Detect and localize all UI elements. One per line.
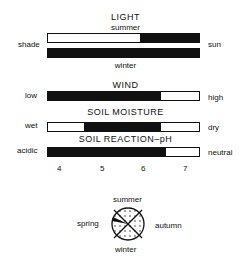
season-circle-icon [108, 204, 148, 244]
light-winter-label: winter [0, 61, 251, 70]
season-autumn-label: autumn [155, 221, 182, 230]
soil-ph-left-label: acidic [17, 146, 37, 155]
light-summer-label: summer [0, 23, 251, 32]
soil-moisture-title: SOIL MOISTURE [0, 107, 251, 117]
soil-moisture-bar [47, 122, 200, 132]
light-left-label: shade [18, 40, 40, 49]
wind-fill [48, 92, 161, 100]
ph-tick-6: 6 [141, 164, 145, 173]
season-summer-label: summer [113, 195, 142, 204]
soil-moisture-right-label: dry [208, 123, 219, 132]
light-title: LIGHT [0, 12, 251, 22]
light-summer-fill [140, 34, 199, 42]
light-right-label: sun [208, 40, 221, 49]
soil-ph-fill [48, 148, 166, 156]
ph-tick-5: 5 [100, 164, 104, 173]
wind-left-label: low [25, 91, 37, 100]
light-summer-bar [47, 33, 200, 43]
soil-ph-title: SOIL REACTION–pH [0, 134, 251, 144]
ph-tick-4: 4 [57, 164, 61, 173]
wind-title: WIND [0, 80, 251, 90]
soil-ph-right-label: neutral [208, 148, 232, 157]
soil-moisture-fill [84, 123, 161, 131]
wind-right-label: high [208, 93, 223, 102]
season-winter-label: winter [115, 245, 136, 254]
ph-tick-7: 7 [183, 164, 187, 173]
light-winter-bar [47, 48, 200, 58]
soil-moisture-left-label: wet [25, 121, 37, 130]
wind-bar [47, 91, 200, 101]
soil-ph-bar [47, 147, 200, 157]
season-spring-label: spring [77, 219, 99, 228]
